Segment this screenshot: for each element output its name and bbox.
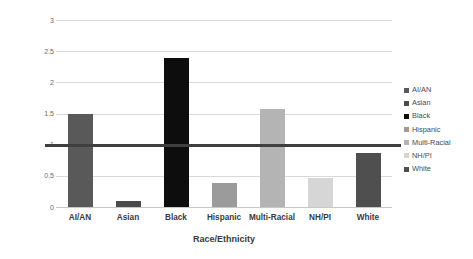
bar-slot	[248, 20, 296, 207]
y-axis-ticks: 00.511.522.53	[36, 20, 54, 207]
legend-item[interactable]: AI/AN	[404, 85, 472, 95]
legend-item-label: Multi-Racial	[412, 139, 451, 147]
x-axis-tick-label: AI/AN	[56, 212, 104, 226]
legend-swatch-icon	[404, 127, 409, 132]
x-axis-tick-label: NH/PI	[296, 212, 344, 226]
x-axis-tick-label: Multi-Racial	[248, 212, 296, 226]
y-axis-tick-label: 2.5	[38, 48, 54, 55]
legend-item-label: Black	[412, 112, 430, 120]
bar-slot	[296, 20, 344, 207]
bar[interactable]	[116, 201, 141, 207]
bar-slot	[56, 20, 104, 207]
bar[interactable]	[356, 153, 381, 207]
legend-swatch-icon	[404, 167, 409, 172]
x-axis-title: Race/Ethnicity	[56, 234, 392, 244]
bar[interactable]	[164, 58, 189, 207]
legend-item[interactable]: Multi-Racial	[404, 138, 472, 148]
y-axis-tick-label: 2	[38, 79, 54, 86]
legend-item[interactable]: Black	[404, 111, 472, 121]
legend-item[interactable]: Asian	[404, 98, 472, 108]
legend-item[interactable]: NH/PI	[404, 151, 472, 161]
bar-chart: Proportion of Suspensions by Proportion …	[0, 0, 473, 259]
y-axis-tick-label: 0.5	[38, 172, 54, 179]
x-axis-ticks: AI/ANAsianBlackHispanicMulti-RacialNH/PI…	[56, 212, 392, 226]
plot-area	[56, 20, 392, 207]
legend-swatch-icon	[404, 101, 409, 106]
legend-item-label: White	[412, 165, 431, 173]
x-axis-tick-label: Hispanic	[200, 212, 248, 226]
legend-swatch-icon	[404, 88, 409, 93]
legend-swatch-icon	[404, 140, 409, 145]
bar[interactable]	[260, 109, 285, 207]
bar[interactable]	[68, 114, 93, 208]
y-axis-tick-label: 3	[38, 17, 54, 24]
bar-group	[56, 20, 392, 207]
legend-item-label: Asian	[412, 99, 431, 107]
bar[interactable]	[212, 183, 237, 207]
legend-item[interactable]: White	[404, 164, 472, 174]
legend-swatch-icon	[404, 114, 409, 119]
legend-item-label: NH/PI	[412, 152, 432, 160]
legend-swatch-icon	[404, 153, 409, 158]
bar-slot	[152, 20, 200, 207]
bar-slot	[200, 20, 248, 207]
x-axis-tick-label: White	[344, 212, 392, 226]
y-axis-tick-label: 1.5	[38, 110, 54, 117]
chart-legend: AI/ANAsianBlackHispanicMulti-RacialNH/PI…	[404, 85, 472, 174]
bar[interactable]	[308, 178, 333, 207]
legend-item-label: AI/AN	[412, 86, 431, 94]
x-axis-tick-label: Black	[152, 212, 200, 226]
x-axis-tick-label: Asian	[104, 212, 152, 226]
legend-item-label: Hispanic	[412, 126, 440, 134]
y-axis-tick-label: 0	[38, 204, 54, 211]
gridline	[56, 207, 392, 208]
bar-slot	[104, 20, 152, 207]
bar-slot	[344, 20, 392, 207]
reference-line	[45, 144, 401, 147]
legend-item[interactable]: Hispanic	[404, 125, 472, 135]
